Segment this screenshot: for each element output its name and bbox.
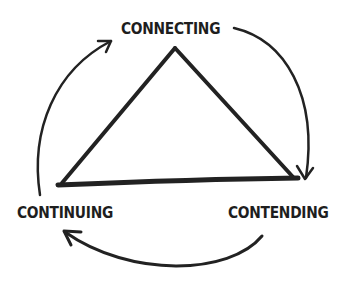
center-triangle [58, 48, 298, 185]
arrow-contending-to-continuing [64, 231, 262, 266]
node-label-continuing: CONTINUING [17, 204, 113, 222]
cycle-diagram: CONNECTING CONTENDING CONTINUING [0, 0, 345, 289]
diagram-drawing [0, 0, 345, 289]
node-label-contending: CONTENDING [228, 204, 329, 222]
node-label-connecting: CONNECTING [121, 20, 220, 38]
arrow-continuing-to-connecting [38, 41, 111, 195]
